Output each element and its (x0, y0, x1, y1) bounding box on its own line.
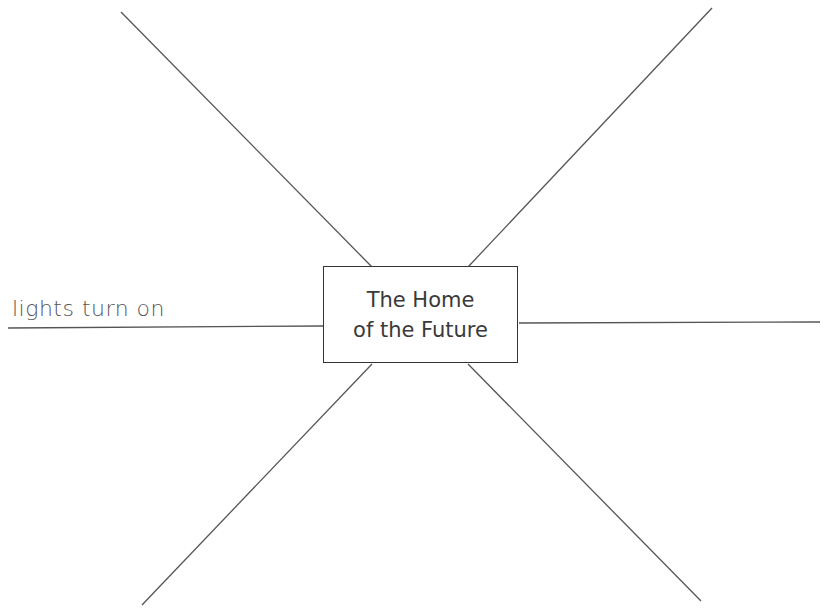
spoke-bottom-left (142, 364, 372, 605)
center-topic-line2: of the Future (353, 315, 488, 345)
spoke-left (8, 326, 324, 328)
spoke-top-right (468, 8, 712, 267)
center-topic-line1: The Home (367, 285, 475, 315)
spoke-right (519, 322, 820, 323)
spoke-top-left (121, 12, 372, 267)
spoke-left-label: lights turn on (12, 296, 165, 321)
center-topic-box: The Home of the Future (323, 266, 518, 363)
spoke-bottom-right (468, 364, 701, 601)
